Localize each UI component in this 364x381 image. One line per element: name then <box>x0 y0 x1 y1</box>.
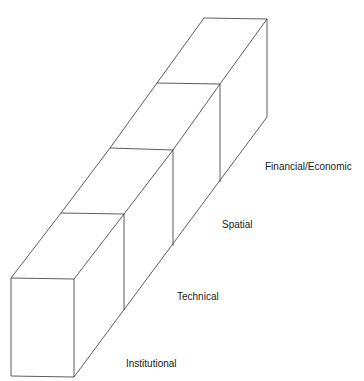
block-technical <box>61 148 173 246</box>
block-diagram <box>0 0 364 381</box>
label-technical: Technical <box>177 291 219 302</box>
base-edge <box>74 117 267 377</box>
block-financial-economic <box>157 18 267 117</box>
block-institutional <box>11 213 124 377</box>
label-institutional: Institutional <box>126 358 177 369</box>
block-spatial <box>110 83 220 182</box>
label-spatial: Spatial <box>222 219 253 230</box>
label-financial-economic: Financial/Economic <box>265 161 352 172</box>
